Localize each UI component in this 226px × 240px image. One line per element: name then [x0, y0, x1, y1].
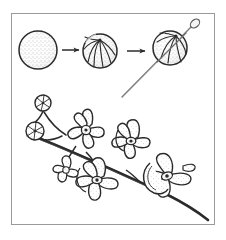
flower-front-facing — [68, 109, 104, 148]
flower-upper-right — [112, 120, 150, 159]
flower-small-left — [53, 156, 78, 182]
step-plain-ball — [19, 31, 57, 69]
bead-forming-sequence — [19, 17, 201, 97]
flower-lower-left — [76, 158, 118, 200]
flower-right — [144, 154, 196, 198]
flowering-branch — [26, 95, 209, 220]
step-segmented-ball — [83, 34, 117, 68]
bud-lower — [26, 122, 44, 140]
illustration-page: craft instruction: forming a fabric flow… — [0, 0, 226, 240]
bud-upper — [35, 95, 51, 111]
illustration-artwork — [0, 0, 226, 240]
step-pinned-ball — [153, 31, 187, 65]
